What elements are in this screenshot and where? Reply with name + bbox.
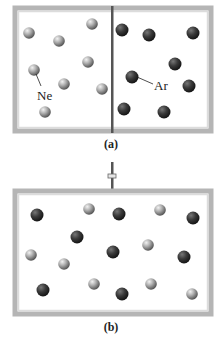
ar-atom [187, 212, 200, 225]
ne-atom [186, 288, 198, 300]
ne-atom [58, 78, 70, 90]
ar-atom [169, 58, 182, 71]
ne-atom [142, 239, 154, 251]
ne-label: Ne [37, 88, 52, 103]
ar-atom [178, 251, 191, 264]
ar-atom [158, 106, 171, 119]
ar-atom [116, 24, 129, 37]
panel-a: Ne Ar (a) [15, 6, 211, 151]
ne-atom [154, 204, 166, 216]
ne-atom [58, 258, 70, 270]
ar-atom [183, 80, 196, 93]
ne-atom [25, 249, 37, 261]
ar-label: Ar [154, 78, 168, 93]
ar-atom [113, 208, 126, 221]
caption-b: (b) [104, 320, 119, 334]
ar-atom [37, 284, 50, 297]
panel-b: (b) [15, 162, 211, 334]
gas-mixing-diagram: Ne Ar (a) (b) [0, 0, 222, 343]
ar-atom [118, 103, 131, 116]
ne-atom [145, 278, 157, 290]
ne-atom [86, 18, 98, 30]
ar-atom [126, 71, 139, 84]
partition [111, 6, 114, 133]
ne-atom [39, 106, 51, 118]
ne-atom [28, 64, 40, 76]
ne-atom [88, 278, 100, 290]
caption-a: (a) [104, 137, 118, 151]
ne-atom [83, 203, 95, 215]
ar-atom [107, 246, 120, 259]
ar-atom [31, 209, 44, 222]
ar-atom [71, 231, 84, 244]
ar-atom [187, 27, 200, 40]
ne-atom [82, 56, 94, 68]
ne-atom [23, 27, 35, 39]
ar-atom [116, 288, 129, 301]
ar-atom [143, 29, 156, 42]
ne-atom [53, 35, 65, 47]
ne-atom [96, 83, 108, 95]
stopcock-valve-icon [108, 174, 116, 178]
